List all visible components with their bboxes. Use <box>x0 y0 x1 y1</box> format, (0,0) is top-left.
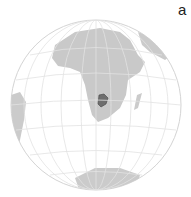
globe-map <box>0 0 191 197</box>
